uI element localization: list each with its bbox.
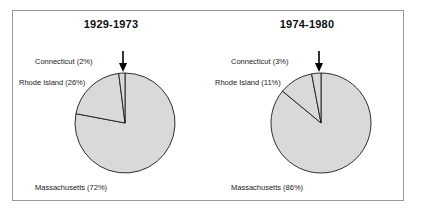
label-massachusetts: Massachusetts (72%): [35, 184, 107, 192]
label-connecticut: Connecticut (2%): [35, 58, 93, 66]
pie-panel-1929-1973: 1929-1973 Connecticut (2%): [13, 11, 209, 202]
pie-chart-1974-1980: [209, 11, 405, 202]
pie-slices: [75, 73, 175, 173]
pie-panel-1974-1980: 1974-1980 Connecticut (3%) Rhode Island …: [209, 11, 405, 202]
pie-slices: [271, 73, 371, 173]
arrow-down-icon: [315, 51, 323, 72]
pie-chart-1929-1973: [13, 11, 209, 202]
figure-frame: 1929-1973 Connecticut (2%): [12, 10, 404, 201]
label-rhode-island: Rhode Island (26%): [19, 79, 85, 87]
label-connecticut: Connecticut (3%): [231, 58, 289, 66]
label-rhode-island: Rhode Island (11%): [215, 79, 281, 87]
figure-root: 1929-1973 Connecticut (2%): [0, 0, 421, 215]
label-massachusetts: Massachusetts (86%): [231, 184, 303, 192]
arrow-down-icon: [119, 51, 127, 72]
